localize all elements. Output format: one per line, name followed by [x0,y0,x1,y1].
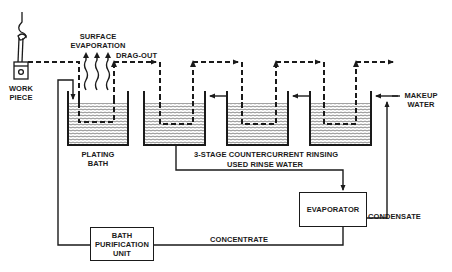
work-piece-icon [14,12,28,79]
rinsing-label: 3-STAGE COUNTERCURRENT RINSING [194,150,338,159]
tank-plating-bath [68,91,128,145]
bath-purification-unit-box: BATH PURIFICATION UNIT [90,227,154,261]
work-piece-label: WORK PIECE [4,84,38,102]
used-rinse-water-label: USED RINSE WATER [227,160,303,169]
tank-rinse-1 [144,91,205,145]
concentrate-label: CONCENTRATE [210,235,268,244]
makeup-water-label: MAKEUP WATER [401,91,441,109]
drag-out-label: DRAG-OUT [116,51,157,60]
evaporation-arrows-icon [85,56,110,90]
bath-purification-label: BATH PURIFICATION UNIT [95,231,149,258]
evaporator-box: EVAPORATOR [299,192,367,227]
condensate-label: CONDENSATE [368,212,421,221]
tank-rinse-2 [227,91,288,145]
surface-evaporation-label: SURFACE EVAPORATION [66,32,130,50]
tank-rinse-3 [310,91,371,145]
evaporator-label: EVAPORATOR [307,205,360,214]
plating-bath-label: PLATING BATH [76,150,120,168]
evaporation-arrowheads [83,52,111,58]
